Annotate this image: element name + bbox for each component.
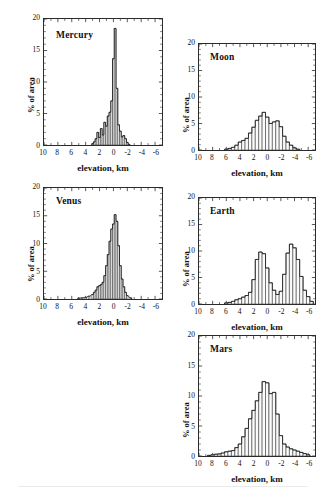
y-axis-label-mars: % of area: [181, 402, 191, 438]
y-tick-label: 10: [25, 239, 40, 248]
panel-mars: Mars % of area elevation, km 1086420-2-4…: [160, 330, 323, 494]
panel-title-mars: Mars: [210, 344, 232, 354]
scan-artifact: [18, 486, 308, 487]
y-tick-label: 5: [25, 109, 40, 118]
panel-title-earth: Earth: [210, 206, 235, 216]
y-tick-label: 0: [180, 300, 195, 309]
plot-area-mars: [199, 336, 315, 456]
x-axis-label-mars: elevation, km: [198, 474, 316, 484]
x-tick-label: -6: [299, 459, 319, 468]
y-tick-label: 5: [25, 267, 40, 276]
y-tick-label: 10: [25, 77, 40, 86]
panel-moon: Moon % of area elevation, km 1086420-2-4…: [160, 38, 323, 188]
y-tick-label: 5: [180, 422, 195, 431]
y-tick-label: 5: [180, 119, 195, 128]
x-tick-label: -6: [299, 307, 319, 316]
y-tick-label: 20: [180, 192, 195, 201]
y-tick-label: 10: [180, 92, 195, 101]
y-tick-label: 20: [25, 13, 40, 22]
y-tick-label: 15: [25, 210, 40, 219]
y-tick-label: 20: [180, 330, 195, 339]
y-axis-label-venus: % of area: [26, 246, 36, 282]
planetary-hypsometry-figure: Mercury % of area elevation, km 1086420-…: [0, 0, 323, 494]
panel-title-venus: Venus: [56, 196, 81, 206]
y-tick-label: 20: [180, 38, 195, 47]
y-tick-label: 20: [25, 182, 40, 191]
histogram-mars: [199, 336, 315, 456]
x-axis-label-mercury: elevation, km: [43, 163, 163, 173]
y-tick-label: 15: [180, 219, 195, 228]
panel-earth: Earth % of area elevation, km 1086420-2-…: [160, 192, 323, 342]
panel-venus: Venus % of area elevation, km 1086420-2-…: [0, 182, 170, 332]
panel-title-mercury: Mercury: [56, 30, 93, 40]
y-tick-label: 15: [180, 65, 195, 74]
panel-mercury: Mercury % of area elevation, km 1086420-…: [0, 0, 170, 180]
y-tick-label: 10: [180, 246, 195, 255]
y-tick-label: 10: [180, 391, 195, 400]
y-tick-label: 0: [25, 295, 40, 304]
y-tick-label: 0: [180, 452, 195, 461]
x-tick-label: -6: [299, 153, 319, 162]
y-tick-label: 15: [25, 45, 40, 54]
y-tick-label: 15: [180, 361, 195, 370]
panel-title-moon: Moon: [210, 52, 235, 62]
y-tick-label: 0: [180, 146, 195, 155]
y-tick-label: 5: [180, 273, 195, 282]
y-tick-label: 0: [25, 141, 40, 150]
x-axis-label-moon: elevation, km: [198, 168, 316, 178]
x-axis-label-venus: elevation, km: [43, 317, 163, 327]
